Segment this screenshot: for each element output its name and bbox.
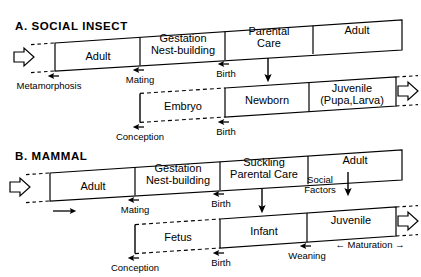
segment-label-b-lower-fetus: Fetus xyxy=(164,232,192,244)
segment-label-b-upper-adult2: Adult xyxy=(342,155,367,167)
section-b-outflow-arrow xyxy=(398,212,418,230)
segment-label-a-lower-juvenile-line2: (Pupa,Larva) xyxy=(320,95,384,107)
segment-label-b-upper-adult: Adult xyxy=(80,181,105,193)
figure-root: A. SOCIAL INSECT B. MAMMAL xyxy=(0,0,421,277)
segment-label-a-upper-parental-line2: Care xyxy=(257,38,281,50)
event-label-b-birth-upper: Birth xyxy=(211,199,231,209)
segment-label-b-upper-suckling-line1: Suckling xyxy=(243,157,285,169)
section-a-inflow-arrow xyxy=(14,48,34,66)
section-a-outflow-arrow xyxy=(398,82,418,100)
segment-label-a-lower-newborn: Newborn xyxy=(245,95,289,107)
segment-label-b-upper-gestation-line2: Nest-building xyxy=(146,175,210,187)
segment-label-a-upper-gestation-line1: Gestation xyxy=(159,33,206,45)
segment-label-b-lower-juvenile: Juvenile xyxy=(331,215,371,227)
annotation-maturation: ← Maturation → xyxy=(335,240,404,250)
event-label-b-birth-lower: Birth xyxy=(211,258,231,268)
segment-label-b-upper-suckling-line2: Parental Care xyxy=(230,169,298,181)
section-b-inflow-arrow xyxy=(10,178,30,196)
segment-label-b-upper-gestation-line1: Gestation xyxy=(154,163,201,175)
event-label-a-conception: Conception xyxy=(116,132,164,142)
segment-label-a-upper-gestation-line2: Nest-building xyxy=(151,45,215,57)
segment-label-a-lower-embryo: Embryo xyxy=(164,101,202,113)
annotation-social-factors-line2: Factors xyxy=(304,185,336,195)
event-label-a-metamorphosis: Metamorphosis xyxy=(17,81,82,91)
event-label-b-mating: Mating xyxy=(121,205,150,215)
event-label-b-conception: Conception xyxy=(111,263,159,273)
diagram-linework xyxy=(0,0,421,277)
segment-label-b-lower-infant: Infant xyxy=(250,226,278,238)
segment-label-a-upper-parental-line1: Parental xyxy=(249,26,290,38)
event-label-b-weaning: Weaning xyxy=(288,251,325,261)
event-label-a-birth-lower: Birth xyxy=(216,127,236,137)
segment-label-a-lower-juvenile-line1: Juvenile xyxy=(332,83,372,95)
event-label-a-mating: Mating xyxy=(126,75,155,85)
segment-label-a-upper-adult2: Adult xyxy=(344,25,369,37)
segment-label-a-upper-adult: Adult xyxy=(85,51,110,63)
event-label-a-birth-upper: Birth xyxy=(216,69,236,79)
